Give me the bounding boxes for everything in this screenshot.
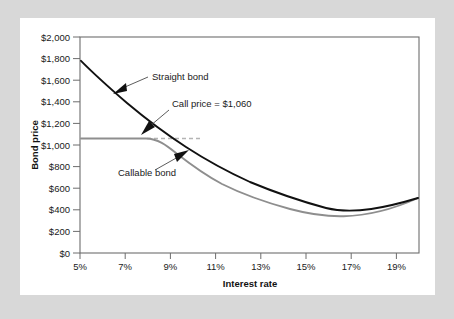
x-tick-label: 19% [387, 261, 407, 272]
annotation-label: Straight bond [152, 71, 209, 82]
series-straight-bond [81, 61, 418, 211]
y-tick-label: $200 [49, 226, 70, 237]
x-tick-label: 9% [164, 261, 178, 272]
y-axis-title: Bond price [29, 120, 40, 170]
annotation-call-price: Call price = $1,060 [141, 98, 251, 135]
x-tick-label: 15% [296, 261, 316, 272]
y-tick-label: $800 [49, 161, 70, 172]
bond-price-chart: $2,000 $1,800 $1,600 $1,400 $1,200 $1,00… [0, 0, 454, 319]
annotation-label: Call price = $1,060 [172, 98, 251, 109]
x-tick-label: 17% [342, 261, 362, 272]
y-tick-label: $2,000 [41, 32, 70, 43]
x-axis-ticks [80, 253, 396, 259]
annotation-callable-bond: Callable bond [118, 150, 189, 178]
x-tick-label: 7% [118, 261, 132, 272]
y-tick-label: $400 [49, 204, 70, 215]
x-axis-tick-labels: 5% 7% 9% 11% 13% 15% 17% 19% [73, 261, 406, 272]
y-tick-label: $0 [59, 248, 70, 259]
annotation-straight-bond: Straight bond [113, 71, 209, 94]
y-axis-tick-labels: $2,000 $1,800 $1,600 $1,400 $1,200 $1,00… [41, 32, 70, 259]
y-tick-label: $1,800 [41, 53, 70, 64]
x-tick-label: 11% [206, 261, 225, 272]
y-axis-ticks [73, 37, 80, 253]
x-tick-label: 5% [73, 261, 87, 272]
arrowhead-icon [113, 83, 127, 94]
x-tick-label: 13% [251, 261, 271, 272]
y-tick-label: $1,000 [41, 140, 70, 151]
plot-frame [80, 37, 419, 253]
x-axis-title: Interest rate [223, 278, 277, 289]
annotation-label: Callable bond [118, 167, 176, 178]
y-tick-label: $1,600 [41, 75, 70, 86]
y-tick-label: $600 [49, 183, 70, 194]
y-tick-label: $1,200 [41, 118, 70, 129]
y-tick-label: $1,400 [41, 96, 70, 107]
